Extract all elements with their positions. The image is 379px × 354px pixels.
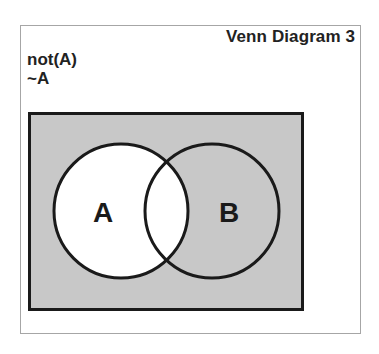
set-a-label: A	[93, 197, 113, 228]
venn-diagram: A B	[0, 0, 379, 354]
set-b-label: B	[219, 197, 239, 228]
